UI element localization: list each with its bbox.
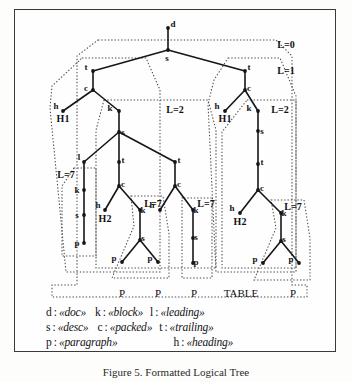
tree-edge: [263, 241, 281, 263]
legend-value: «doc»: [59, 306, 86, 318]
legend-value: «heading»: [186, 336, 233, 348]
node-label-h: h: [229, 203, 234, 213]
figure-container: dstchkslksptchkspptchksptchkstchkspp H1H…: [0, 0, 352, 382]
legend-value: «packed»: [110, 321, 152, 333]
tree-node-c: [91, 88, 95, 92]
node-label-p: p: [111, 253, 116, 263]
node-label-p: p: [288, 254, 293, 264]
node-label-c: c: [84, 83, 88, 93]
region-label-L2: L=2: [271, 104, 288, 115]
leaf-label-H2: H2: [234, 216, 247, 227]
region-boundaries: [50, 40, 310, 297]
node-label-k: k: [74, 185, 79, 195]
legend-entry-c: c:«packed»: [97, 321, 152, 333]
region-label-L7: L=7: [284, 201, 301, 212]
node-label-s: s: [260, 126, 264, 136]
tree-node-t: [91, 69, 95, 73]
legend-separator: :: [103, 321, 110, 333]
tree-node-p: [261, 261, 265, 265]
node-label-h: h: [53, 101, 58, 111]
legend-separator: :: [101, 306, 108, 318]
tree-node-k: [256, 109, 260, 113]
node-label-s: s: [75, 210, 79, 220]
region-label-L0: L=0: [277, 39, 294, 50]
region-L0: [52, 40, 307, 297]
region-L2-left: [96, 100, 216, 268]
legend-row: d:«doc»k:«block»l:«leading»: [46, 306, 308, 321]
node-label-k: k: [107, 103, 112, 113]
legend-entry-t: t:«trailing»: [159, 321, 213, 333]
tree-edge: [175, 186, 193, 210]
tree-node-p: [120, 260, 124, 264]
tree-node-s: [166, 48, 170, 52]
tree-node-t: [117, 160, 121, 164]
node-label-s: s: [194, 232, 198, 242]
tree-edge: [258, 190, 281, 213]
node-label-h: h: [95, 200, 100, 210]
tree-node-p: [82, 241, 86, 245]
node-label-c: c: [177, 179, 181, 189]
legend-entry-p: p:«paragraph»: [46, 336, 117, 348]
leaf-label-H1: H1: [219, 113, 232, 124]
legend-separator: :: [162, 321, 169, 333]
tree-node-t: [173, 160, 177, 164]
legend-separator: :: [52, 336, 59, 348]
tree-node-p: [156, 260, 160, 264]
legend-value: «leading»: [160, 306, 204, 318]
tree-node-k: [117, 109, 121, 113]
node-label-p: p: [252, 254, 257, 264]
leaf-label-H1: H1: [57, 113, 70, 124]
node-label-l: l: [78, 152, 81, 162]
bottom-label-P: P: [155, 287, 161, 299]
node-label-c: c: [121, 179, 125, 189]
region-label-L2: L=2: [166, 104, 183, 115]
tree-edge: [122, 240, 140, 262]
node-label-c: c: [247, 83, 251, 93]
tree-edge: [63, 90, 93, 111]
legend-entry-s: s:«desc»: [46, 321, 88, 333]
legend-separator: :: [179, 336, 186, 348]
region-label-L7: L=7: [57, 169, 74, 180]
tree-node-d: [166, 26, 170, 30]
node-label-s: s: [121, 127, 125, 137]
legend-value: «block»: [108, 306, 143, 318]
tree-edge: [168, 50, 245, 71]
node-label-p: p: [74, 238, 79, 248]
legend-entry-k: k:«block»: [95, 306, 143, 318]
node-label-d: d: [170, 19, 175, 29]
node-label-t: t: [178, 155, 181, 165]
tree-node-l: [82, 160, 86, 164]
legend-row: s:«desc»c:«packed»t:«trailing»: [46, 321, 308, 336]
region-label-L1: L=1: [277, 65, 294, 76]
tree-edge: [160, 186, 175, 210]
node-label-t: t: [122, 155, 125, 165]
node-label-s: s: [165, 53, 169, 63]
legend-row: p:«paragraph»h:«heading»: [46, 336, 308, 351]
tree-node-t: [243, 69, 247, 73]
node-label-p: p: [147, 253, 152, 263]
region-label-L7: L=7: [144, 198, 161, 209]
legend: d:«doc»k:«block»l:«leading»s:«desc»c:«pa…: [46, 306, 308, 351]
tree-node-k: [82, 188, 86, 192]
tree-edge: [119, 132, 175, 162]
legend-separator: :: [52, 306, 59, 318]
tree-edge: [93, 50, 168, 71]
node-label-t: t: [248, 62, 251, 72]
legend-entry-h: h:«heading»: [173, 336, 233, 348]
bottom-label-TABLE: TABLE: [224, 287, 259, 299]
tree-edge: [84, 132, 119, 162]
legend-separator: :: [153, 306, 160, 318]
figure-caption: Figure 5. Formatted Logical Tree: [0, 366, 352, 382]
tree-edges: [63, 28, 299, 263]
legend-entry-l: l:«leading»: [150, 306, 205, 318]
node-label-p: p: [193, 257, 198, 267]
tree-edge: [119, 186, 140, 210]
legend-value: «desc»: [58, 321, 89, 333]
tree-node-s: [82, 213, 86, 217]
node-label-s: s: [141, 233, 145, 243]
tree-edge: [225, 90, 245, 111]
tree-edge: [240, 190, 258, 213]
bottom-label-P: P: [119, 287, 125, 299]
node-label-t: t: [85, 62, 88, 72]
legend-value: «paragraph»: [59, 336, 118, 348]
